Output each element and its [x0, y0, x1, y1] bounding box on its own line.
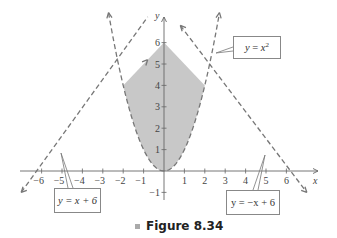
x-tick-label: −6	[33, 175, 44, 186]
x-tick-label: 2	[202, 175, 207, 186]
x-tick-label: 6	[284, 175, 289, 186]
caption-text: Figure 8.34	[146, 219, 223, 233]
figure-plot: −6−5−4−3−2−1123456−1123456xy	[0, 0, 337, 238]
x-tick-label: −4	[74, 175, 85, 186]
label-right-line-text: y = −x + 6	[231, 197, 275, 208]
y-tick-label: 5	[155, 59, 160, 70]
label-left-line: y = x + 6	[54, 188, 101, 213]
label-left-line-text: y = x + 6	[58, 195, 97, 206]
x-tick-label: 5	[264, 175, 269, 186]
x-tick-label: 3	[223, 175, 228, 186]
caption-bullet-icon	[135, 224, 140, 229]
x-tick-label: −5	[54, 175, 65, 186]
x-tick-label: 4	[243, 175, 248, 186]
x-tick-label: −2	[115, 175, 126, 186]
y-tick-label: 6	[155, 37, 160, 48]
y-tick-label: 1	[155, 144, 160, 155]
y-tick-label: −1	[149, 187, 160, 198]
x-tick-label: −3	[94, 175, 105, 186]
y-tick-label: 2	[155, 123, 160, 134]
figure-caption: Figure 8.34	[135, 219, 223, 233]
leader-parabola	[216, 47, 233, 53]
y-axis-label: y	[154, 10, 160, 21]
x-axis-label: x	[312, 175, 318, 186]
label-parabola: y = x 2	[233, 36, 281, 59]
label-right-line: y = −x + 6	[226, 190, 280, 215]
x-tick-label: −1	[135, 175, 146, 186]
y-tick-label: 3	[155, 101, 160, 112]
label-parabola-exp: 2	[266, 41, 270, 49]
y-tick-label: 4	[155, 80, 160, 91]
label-parabola-eq: =	[250, 42, 261, 53]
x-tick-label: 1	[182, 175, 187, 186]
arrowhead-icon	[301, 187, 307, 193]
